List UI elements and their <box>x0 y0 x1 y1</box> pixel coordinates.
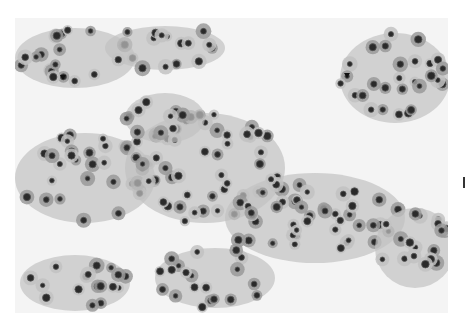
cell-nucleus <box>158 130 163 135</box>
cell-nucleus <box>297 182 302 187</box>
cell-nucleus <box>22 54 29 61</box>
cell-nucleus <box>399 86 405 92</box>
cell-nucleus <box>102 160 107 165</box>
cell-nucleus <box>292 242 297 247</box>
cell-nucleus <box>192 210 197 215</box>
cell-nucleus <box>134 129 140 135</box>
cell-nucleus <box>34 55 39 60</box>
cell-nucleus <box>224 181 230 187</box>
cell-nucleus <box>124 116 129 121</box>
cell-nucleus <box>258 150 263 155</box>
cell-nucleus <box>111 179 116 184</box>
cell-nucleus <box>402 256 408 262</box>
cell-nucleus <box>254 292 260 298</box>
cell-nucleus <box>351 188 358 195</box>
cell-nucleus <box>359 92 366 99</box>
cell-nucleus <box>195 250 200 255</box>
cell-nucleus <box>160 286 166 292</box>
cell-nucleus <box>412 211 419 218</box>
cell-nucleus <box>168 114 173 119</box>
cell-nucleus <box>195 58 202 65</box>
cell-nucleus <box>415 36 422 43</box>
cell-nucleus <box>203 284 210 291</box>
cell-nucleus <box>304 218 311 225</box>
cell-nucleus <box>273 203 280 210</box>
cell-nucleus <box>169 256 175 262</box>
cell-nucleus <box>412 58 418 64</box>
edge-tick-mark <box>463 177 465 188</box>
cell-nucleus <box>199 303 206 310</box>
cell-nucleus <box>81 217 87 223</box>
cell-nucleus <box>184 192 190 198</box>
cell-field <box>15 18 448 313</box>
cell-nucleus <box>398 236 403 241</box>
cell-nucleus <box>159 33 164 38</box>
cell-nucleus <box>191 284 198 291</box>
cell-nucleus <box>183 269 189 275</box>
cell-nucleus <box>215 209 219 213</box>
cell-nucleus <box>53 264 58 269</box>
cell-nucleus <box>163 165 168 170</box>
cell-nucleus <box>368 107 373 112</box>
cell-nucleus <box>376 196 383 203</box>
cell-nucleus <box>227 296 234 303</box>
cell-nucleus <box>357 223 362 228</box>
cell-nucleus <box>219 173 224 178</box>
cell-nucleus <box>53 32 60 39</box>
cell-nucleus <box>333 227 338 232</box>
cell-nucleus <box>143 98 150 105</box>
cell-nucleus <box>382 85 389 92</box>
cell-nucleus <box>244 131 251 138</box>
cell-nucleus <box>235 267 240 272</box>
cell-nucleus <box>255 129 263 137</box>
cell-nucleus <box>49 153 55 159</box>
cell-nucleus <box>97 283 104 290</box>
cell-nucleus <box>109 283 116 290</box>
cell-nucleus <box>160 199 167 206</box>
histology-micrograph <box>15 18 448 313</box>
cell-nucleus <box>235 236 242 243</box>
cell-nucleus <box>333 211 339 217</box>
cell-nucleus <box>215 128 220 133</box>
cell-nucleus <box>382 43 388 49</box>
cell-nucleus <box>85 176 90 181</box>
cell-nucleus <box>57 162 62 167</box>
cell-nucleus <box>305 190 310 195</box>
cell-nucleus <box>27 275 34 282</box>
cell-nucleus <box>185 40 191 46</box>
cell-nucleus <box>338 81 343 86</box>
cell-nucleus <box>177 204 183 210</box>
cell-nucleus <box>251 281 257 287</box>
cell-nucleus <box>211 296 217 302</box>
cell-nucleus <box>383 221 389 227</box>
cell-nucleus <box>245 237 252 244</box>
cell-nucleus <box>85 271 91 277</box>
cell-nucleus <box>294 228 299 233</box>
cell-nucleus <box>212 112 217 117</box>
cell-nucleus <box>65 27 71 33</box>
cell-nucleus <box>397 61 403 67</box>
cell-nucleus <box>200 208 206 214</box>
cell-nucleus <box>411 253 417 259</box>
cell-nucleus <box>91 72 97 78</box>
cell-nucleus <box>237 199 244 206</box>
cell-nucleus <box>337 217 343 223</box>
cell-nucleus <box>369 44 376 51</box>
cell-nucleus <box>50 178 55 183</box>
cell-nucleus <box>175 172 182 179</box>
cell-nucleus <box>207 42 212 47</box>
cell-nucleus <box>146 179 151 184</box>
cell-nucleus <box>168 266 175 273</box>
cell-nucleus <box>170 125 177 132</box>
cell-nucleus <box>256 160 263 167</box>
cell-nucleus <box>182 218 187 223</box>
cell-nucleus <box>68 152 75 159</box>
cell-nucleus <box>115 271 122 278</box>
cell-nucleus <box>201 148 208 155</box>
cell-nucleus <box>53 62 58 67</box>
cell-nucleus <box>406 239 413 246</box>
cell-nucleus <box>440 66 446 72</box>
cell-nucleus <box>215 152 221 158</box>
cell-nucleus <box>101 136 106 141</box>
cell-nucleus <box>57 47 62 52</box>
